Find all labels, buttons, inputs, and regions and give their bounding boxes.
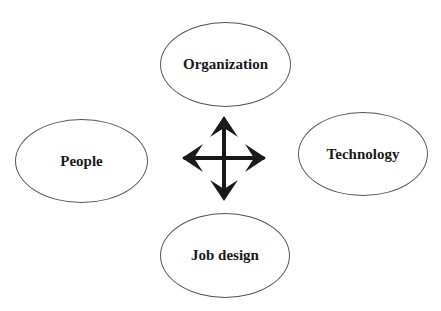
four-way-arrow-icon	[0, 0, 441, 311]
diagram-canvas: Organization People Technology Job desig…	[0, 0, 441, 311]
